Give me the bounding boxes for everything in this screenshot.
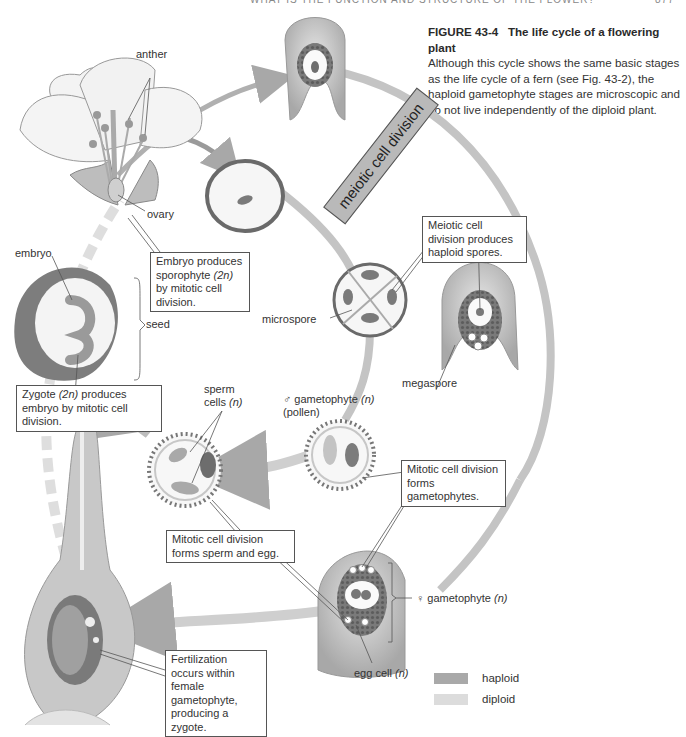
callout-mitotic-gametophytes: Mitotic cell division forms gametophytes… xyxy=(401,460,506,507)
label-sperm-cells: sperm cells (n) xyxy=(204,383,243,409)
label-female-gametophyte: ♀ gametophyte (n) xyxy=(416,592,507,605)
arrow-pollen-to-sperm xyxy=(228,455,310,472)
seed xyxy=(14,256,145,395)
microspore-tetrad xyxy=(334,264,406,336)
pollen-grain-male-gametophyte xyxy=(306,421,374,489)
label-ovary: ovary xyxy=(147,208,174,221)
arrow-to-pistil xyxy=(135,610,330,625)
label-seed: seed xyxy=(146,318,170,331)
legend: haploid diploid xyxy=(434,668,519,710)
ovule-megaspore xyxy=(442,263,518,371)
label-microspore: microspore xyxy=(262,313,316,326)
label-egg-cell: egg cell (n) xyxy=(354,667,408,680)
callout-meiotic-spores: Meiotic cell division produces haploid s… xyxy=(422,216,527,263)
flower xyxy=(20,58,202,211)
callout-zygote-embryo: Zygote (2n) produces embryo by mitotic c… xyxy=(16,385,162,432)
label-anther: anther xyxy=(136,48,167,61)
callout-mitotic-sperm-egg: Mitotic cell division forms sperm and eg… xyxy=(166,530,295,563)
label-megaspore: megaspore xyxy=(402,377,457,390)
pistil xyxy=(25,417,135,725)
ovule-top xyxy=(285,18,345,121)
label-male-gametophyte: ♂ gametophyte (n) (pollen) xyxy=(283,393,374,419)
haploid-swatch xyxy=(434,673,468,684)
callout-fertilization: Fertilization occurs within female gamet… xyxy=(165,650,267,737)
life-cycle-illustration xyxy=(0,0,686,737)
legend-item-haploid: haploid xyxy=(434,668,519,688)
diploid-swatch xyxy=(434,694,468,705)
ovule-female-gametophyte xyxy=(318,551,412,677)
legend-item-diploid: diploid xyxy=(434,689,519,709)
label-embryo: embryo xyxy=(15,247,52,260)
callout-embryo-sporophyte: Embryo produces sporophyte (2n) by mitot… xyxy=(150,252,250,312)
microspore-mother-cell xyxy=(207,161,283,231)
